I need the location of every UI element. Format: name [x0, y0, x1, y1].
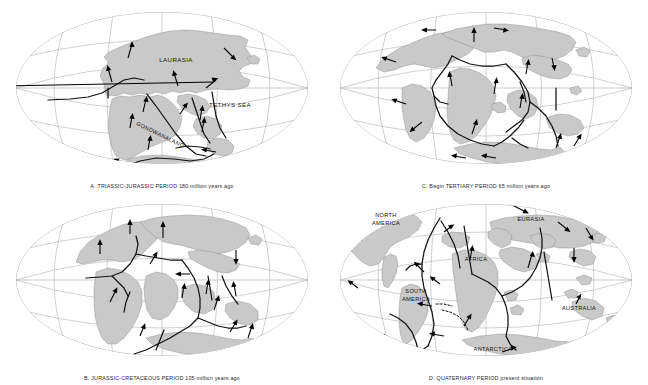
panel-d-caption-code: D.: [429, 375, 435, 381]
panel-a-caption-age: 180 million years ago: [179, 183, 234, 189]
panel-b-caption-code: B.: [84, 375, 89, 381]
continental-drift-figure: LAURASIA TETHYS SEA GONDWANALAND A. TRIA…: [0, 0, 648, 385]
landmasses-d: [348, 213, 620, 356]
panel-b-map: [0, 192, 324, 368]
panel-b: B. JURASSIC-CRETACEOUS PERIOD 135 millio…: [0, 192, 324, 384]
map-label-north: NORTH: [375, 212, 397, 218]
panel-b-caption-period: JURASSIC-CRETACEOUS PERIOD: [91, 375, 183, 381]
panel-c: C. Begin TERTIARY PERIOD 65 million year…: [324, 0, 648, 192]
panel-a-caption-code: A.: [90, 183, 95, 189]
panel-a-map: LAURASIA TETHYS SEA GONDWANALAND: [0, 0, 324, 176]
map-label-north-america: AMERICA: [372, 220, 400, 226]
panel-a: LAURASIA TETHYS SEA GONDWANALAND A. TRIA…: [0, 0, 324, 192]
panel-c-map: [324, 0, 648, 176]
panel-d-caption-period: QUATERNARY PERIOD: [437, 375, 499, 381]
map-label-tethys-sea: TETHYS SEA: [209, 101, 252, 108]
map-label-south-america: AMERICA: [402, 296, 430, 302]
panel-b-caption-age: 135 million years ago: [185, 375, 240, 381]
panel-a-caption-period: TRIASSIC-JURASSIC PERIOD: [97, 183, 177, 189]
panel-c-caption: C. Begin TERTIARY PERIOD 65 million year…: [324, 182, 648, 190]
map-label-australia: AUSTRALIA: [562, 305, 596, 311]
map-label-laurasia: LAURASIA: [159, 56, 193, 63]
panel-c-caption-code: C.: [422, 183, 428, 189]
panel-d-map: NORTH AMERICA EURASIA AFRICA SOUTH AMERI…: [324, 192, 648, 368]
panel-d: NORTH AMERICA EURASIA AFRICA SOUTH AMERI…: [324, 192, 648, 384]
panel-a-caption: A. TRIASSIC-JURASSIC PERIOD 180 million …: [0, 182, 324, 190]
panel-d-caption: D. QUATERNARY PERIOD present situation: [324, 374, 648, 382]
panel-c-caption-age: 65 million years ago: [499, 183, 551, 189]
map-label-africa: AFRICA: [465, 256, 488, 262]
map-label-south: SOUTH: [405, 288, 426, 294]
panel-b-caption: B. JURASSIC-CRETACEOUS PERIOD 135 millio…: [0, 374, 324, 382]
panel-c-caption-period: Begin TERTIARY PERIOD: [429, 183, 497, 189]
map-label-antarctica: ANTARCTICA: [474, 346, 513, 352]
map-label-eurasia: EURASIA: [517, 216, 544, 222]
panel-d-caption-age: present situation: [500, 375, 543, 381]
